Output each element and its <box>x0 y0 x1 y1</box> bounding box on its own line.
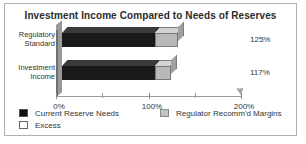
chart-frame: Investment Income Compared to Needs of R… <box>4 3 297 136</box>
bar-segment-current-reserve-needs <box>62 66 155 80</box>
chart-title: Investment Income Compared to Needs of R… <box>5 10 296 21</box>
legend-item-excess[interactable]: Excess <box>19 120 61 130</box>
x-tick-0 <box>56 93 57 99</box>
legend-swatch-icon <box>19 109 28 117</box>
bar-front-face <box>155 66 171 80</box>
legend-item-current-reserve-needs[interactable]: Current Reserve Needs <box>19 108 119 118</box>
legend-label: Excess <box>35 121 61 130</box>
x-tick-200 <box>241 93 242 99</box>
bar-front-face <box>155 33 178 47</box>
bar-segment-regulator-margins <box>155 33 178 47</box>
value-label-regulatory-standard: 125% <box>250 35 270 44</box>
legend-label: Regulator Recomm'd Margins <box>176 109 282 118</box>
bar-segment-current-reserve-needs <box>62 33 155 47</box>
bar-side-face <box>171 55 177 74</box>
legend-label: Current Reserve Needs <box>35 109 119 118</box>
chart-legend: Current Reserve Needs Excess Regulator R… <box>5 108 298 134</box>
bar-front-face <box>62 66 155 80</box>
x-tick-100 <box>149 93 150 99</box>
x-tick-150 <box>195 93 196 98</box>
value-label-investment-income: 117% <box>250 68 270 77</box>
category-axis-line <box>56 30 58 97</box>
plot-area: 0% 100% 200% 125% 117% <box>5 24 298 99</box>
bar-segment-regulator-margins <box>155 66 171 80</box>
legend-swatch-icon <box>19 121 28 129</box>
bar-front-face <box>62 33 155 47</box>
x-tick-50 <box>102 93 103 98</box>
legend-swatch-icon <box>160 109 169 117</box>
bar-side-face <box>178 22 184 41</box>
legend-item-regulator-margins[interactable]: Regulator Recomm'd Margins <box>160 108 282 118</box>
